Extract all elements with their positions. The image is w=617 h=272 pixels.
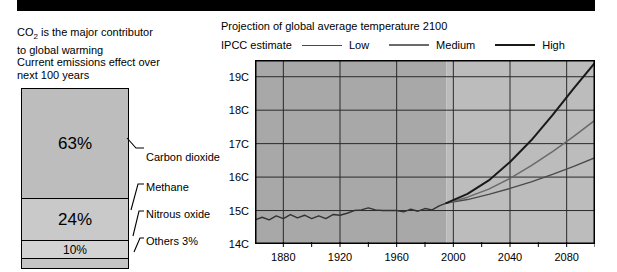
x-tick-label: 2000	[441, 251, 465, 263]
legend-label-low: Low	[349, 39, 369, 51]
callout-label-methane: Methane	[146, 181, 189, 193]
callout-label-carbon-dioxide: Carbon dioxide	[146, 151, 220, 163]
y-tick-label: 18C	[229, 104, 249, 116]
caption-current-emissions: Current emissions effect over next 100 y…	[17, 56, 207, 81]
y-tick-label: 14C	[229, 238, 249, 250]
bar-segment-methane-value: 24%	[58, 210, 92, 230]
x-tick-label: 2040	[498, 251, 522, 263]
y-tick-label: 16C	[229, 171, 249, 183]
callout-label-nitrous-oxide: Nitrous oxide	[146, 208, 210, 220]
caption-co2-contributor: CO2 is the major contributor to global w…	[17, 26, 207, 56]
chart-plot-area	[255, 60, 595, 244]
legend-item-low: Low	[302, 39, 369, 51]
caption-co2-prefix: CO	[17, 26, 34, 38]
chart-title: Projection of global average temperature…	[221, 20, 447, 32]
top-black-banner	[17, 0, 595, 11]
legend-swatch-low	[302, 45, 342, 46]
bar-segment-others	[22, 259, 128, 268]
callout-label-others: Others 3%	[146, 235, 198, 247]
legend-swatch-medium	[389, 44, 429, 46]
legend-item-medium: Medium	[389, 39, 475, 51]
chart-legend: IPCC estimate Low Medium High	[221, 38, 585, 52]
temperature-line-chart	[255, 60, 595, 244]
legend-title: IPCC estimate	[221, 39, 292, 51]
y-tick-label: 19C	[229, 71, 249, 83]
x-axis-ticks	[255, 242, 595, 248]
x-tick-label: 1880	[271, 251, 295, 263]
legend-swatch-high	[495, 44, 535, 46]
bar-segment-nitrous-oxide-value: 10%	[63, 243, 87, 257]
legend-item-high: High	[495, 39, 565, 51]
y-tick-label: 17C	[229, 138, 249, 150]
x-tick-label: 1920	[328, 251, 352, 263]
y-tick-label: 15C	[229, 205, 249, 217]
temperature-projection-panel: Projection of global average temperature…	[215, 14, 617, 272]
x-axis-labels: 188019201960200020402080	[255, 246, 595, 264]
bar-segment-nitrous-oxide: 10%	[22, 241, 128, 259]
bar-segment-methane: 24%	[22, 199, 128, 241]
legend-label-medium: Medium	[436, 39, 475, 51]
x-tick-label: 1960	[384, 251, 408, 263]
bar-segment-carbon-dioxide: 63%	[22, 89, 128, 199]
legend-label-high: High	[542, 39, 565, 51]
y-axis-labels: 14C15C16C17C18C19C	[215, 60, 253, 244]
emissions-stacked-bar: 63% 24% 10%	[21, 88, 129, 269]
bar-segment-carbon-dioxide-value: 63%	[58, 134, 92, 154]
x-tick-label: 2080	[554, 251, 578, 263]
emissions-panel: CO2 is the major contributor to global w…	[0, 14, 215, 272]
infographic-root: CO2 is the major contributor to global w…	[0, 0, 617, 272]
